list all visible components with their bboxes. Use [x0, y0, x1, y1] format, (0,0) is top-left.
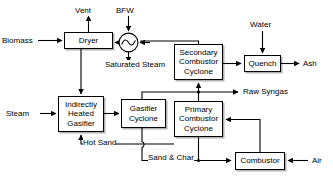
stream-label-water: Water [250, 20, 271, 29]
node-primary-combustor-cyclone-label-0: Primary [185, 105, 213, 114]
node-secondary-combustor-cyclone-label-1: Combustor [179, 57, 218, 66]
node-quench[interactable]: Quench [244, 55, 281, 72]
stream-label-air: Air [312, 156, 322, 165]
stream-label-vent: Vent [75, 6, 91, 15]
stream-label-bfw: BFW [116, 6, 134, 15]
junction-sand-char [197, 159, 200, 162]
heat-exchanger-icon[interactable] [118, 32, 139, 53]
node-gasifier-cyclone-label-1: Cyclone [129, 114, 158, 123]
stream-label-saturated-steam: Saturated Steam [105, 60, 153, 70]
junction-raw-syngas [197, 91, 200, 94]
stream-label-sand-char: Sand & Char [148, 153, 194, 162]
stream-label-hot-sand: Hot Sand [83, 138, 116, 147]
node-dryer[interactable]: Dryer [64, 32, 113, 49]
node-combustor-label-0: Combustor [240, 156, 279, 165]
stream-label-saturated-steam-line-1: Steam [142, 60, 165, 69]
node-dryer-label-0: Dryer [79, 36, 99, 45]
stream-label-steam: Steam [6, 109, 29, 118]
line-combustor-to-primary-cyclone [226, 120, 260, 153]
process-flow-diagram: Dryer Secondary Combustor Cyclone Quench… [0, 0, 333, 177]
node-indirectly-heated-gasifier[interactable]: Indirectly Heated Gasifier [58, 96, 104, 132]
node-indirectly-heated-gasifier-label-2: Gasifier [67, 119, 95, 128]
stream-label-ash: Ash [303, 59, 317, 68]
node-gasifier-cyclone-label-0: Gasifier [130, 104, 158, 113]
node-secondary-combustor-cyclone-label-0: Secondary [179, 48, 217, 57]
node-secondary-combustor-cyclone[interactable]: Secondary Combustor Cyclone [174, 44, 223, 80]
line-gasifier-cyclone-to-raw-syngas [142, 92, 238, 99]
node-indirectly-heated-gasifier-label-0: Indirectly [65, 100, 97, 109]
node-primary-combustor-cyclone-label-1: Combustor [179, 114, 218, 123]
stream-label-raw-syngas: Raw Syngas [243, 87, 288, 96]
node-primary-combustor-cyclone-label-2: Cyclone [184, 124, 213, 133]
node-secondary-combustor-cyclone-label-2: Cyclone [184, 67, 213, 76]
node-combustor[interactable]: Combustor [235, 152, 285, 170]
node-quench-label-0: Quench [248, 59, 276, 68]
stream-label-saturated-steam-line-0: Saturated [105, 60, 140, 69]
node-indirectly-heated-gasifier-label-1: Heated [68, 109, 94, 118]
node-primary-combustor-cyclone[interactable]: Primary Combustor Cyclone [174, 101, 223, 137]
node-gasifier-cyclone[interactable]: Gasifier Cyclone [121, 99, 166, 128]
stream-label-biomass: Biomass [2, 36, 33, 45]
